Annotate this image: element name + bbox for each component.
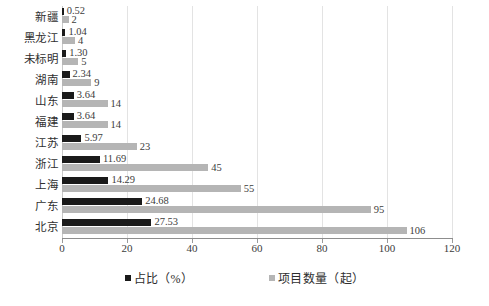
category-label: 湖南 (2, 74, 58, 86)
bar-value-label-percentage: 14.29 (111, 175, 135, 185)
bar-value-label-percentage: 3.64 (77, 111, 95, 121)
bar-project-count[interactable] (62, 16, 69, 23)
category-axis: 新疆黑龙江未标明湖南山东福建江苏浙江上海广东北京 (0, 6, 58, 238)
bar-project-count[interactable] (62, 206, 371, 213)
bar-project-count[interactable] (62, 37, 75, 44)
axis-tick-label: 120 (444, 242, 461, 254)
chart-row: 5.9723 (62, 133, 452, 154)
legend-item-project-count[interactable]: 项目数量（起） (269, 269, 364, 287)
bar-project-count[interactable] (62, 121, 108, 128)
category-label: 未标明 (2, 53, 58, 65)
bar-value-label-project-count: 23 (140, 142, 151, 152)
category-label: 北京 (2, 221, 58, 233)
bar-percentage[interactable] (62, 113, 74, 120)
bar-value-label-project-count: 14 (111, 120, 122, 130)
bar-value-label-percentage: 24.68 (145, 196, 169, 206)
bar-project-count[interactable] (62, 79, 91, 86)
bar-percentage[interactable] (62, 219, 151, 226)
bar-value-label-percentage: 5.97 (84, 133, 102, 143)
legend-label-percentage: 占比（%） (134, 269, 194, 287)
bar-project-count[interactable] (62, 227, 407, 234)
bar-percentage[interactable] (62, 135, 81, 142)
legend-label-project-count: 项目数量（起） (278, 269, 364, 287)
gridline (452, 6, 453, 238)
chart-row: 3.6414 (62, 111, 452, 132)
bar-project-count[interactable] (62, 185, 241, 192)
bar-value-label-percentage: 11.69 (103, 154, 126, 164)
chart-row: 2.349 (62, 69, 452, 90)
bar-value-label-project-count: 106 (410, 226, 426, 236)
chart-row: 0.522 (62, 6, 452, 27)
legend-item-percentage[interactable]: 占比（%） (125, 269, 194, 287)
bar-value-label-percentage: 3.64 (77, 90, 95, 100)
bar-percentage[interactable] (62, 156, 100, 163)
chart-row: 1.044 (62, 27, 452, 48)
axis-tick-label: 20 (122, 242, 133, 254)
bar-value-label-project-count: 45 (211, 163, 222, 173)
axis-tick-label: 0 (59, 242, 65, 254)
bar-percentage[interactable] (62, 92, 74, 99)
bar-percentage[interactable] (62, 198, 142, 205)
bar-value-label-project-count: 14 (111, 99, 122, 109)
bar-value-label-project-count: 55 (244, 184, 255, 194)
category-label: 新疆 (2, 11, 58, 23)
bar-project-count[interactable] (62, 58, 78, 65)
bar-percentage[interactable] (62, 29, 65, 36)
bar-value-label-project-count: 5 (81, 57, 86, 67)
legend-swatch-percentage-icon (125, 275, 131, 281)
axis-tick-label: 40 (187, 242, 198, 254)
bar-value-label-project-count: 95 (374, 205, 385, 215)
legend-swatch-project-count-icon (269, 275, 275, 281)
chart-row: 11.6945 (62, 154, 452, 175)
chart-row: 1.305 (62, 48, 452, 69)
axis-tick-label: 100 (379, 242, 396, 254)
category-label: 福建 (2, 116, 58, 128)
bar-project-count[interactable] (62, 143, 137, 150)
category-label: 浙江 (2, 158, 58, 170)
bar-value-label-project-count: 2 (72, 15, 77, 25)
bar-value-label-project-count: 9 (94, 78, 99, 88)
bar-percentage[interactable] (62, 50, 66, 57)
chart-legend: 占比（%） 项目数量（起） (0, 268, 489, 288)
category-label: 山东 (2, 95, 58, 107)
bar-percentage[interactable] (62, 71, 70, 78)
bar-project-count[interactable] (62, 164, 208, 171)
category-label: 上海 (2, 179, 58, 191)
category-label: 江苏 (2, 137, 58, 149)
bar-percentage[interactable] (62, 8, 64, 15)
plot-area: 0.5221.0441.3052.3493.64143.64145.972311… (62, 6, 452, 238)
category-label: 广东 (2, 200, 58, 212)
value-axis-ticks: 020406080100120 (0, 239, 489, 257)
chart-row: 27.53106 (62, 217, 452, 238)
bar-percentage[interactable] (62, 177, 108, 184)
chart-row: 24.6895 (62, 196, 452, 217)
axis-tick-label: 80 (317, 242, 328, 254)
category-label: 黑龙江 (2, 32, 58, 44)
axis-tick-label: 60 (252, 242, 263, 254)
chart-row: 14.2955 (62, 175, 452, 196)
chart-row: 3.6414 (62, 90, 452, 111)
bar-value-label-project-count: 4 (78, 36, 83, 46)
bar-chart: 新疆黑龙江未标明湖南山东福建江苏浙江上海广东北京 0.5221.0441.305… (0, 0, 489, 306)
bar-value-label-percentage: 27.53 (154, 217, 178, 227)
bar-value-label-percentage: 2.34 (73, 69, 91, 79)
bar-project-count[interactable] (62, 100, 108, 107)
